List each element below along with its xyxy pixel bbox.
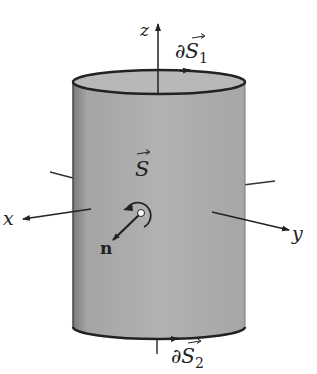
axis-stub-right: [243, 181, 275, 185]
z-axis-label: z: [139, 20, 150, 40]
y-axis-label: y: [291, 222, 303, 244]
normal-label: n: [100, 238, 112, 258]
bottom-boundary-label: ∂S2: [171, 344, 204, 371]
top-boundary-label: ∂S1: [175, 39, 208, 66]
x-axis-label: x: [3, 207, 14, 229]
surface-label: S: [135, 157, 149, 181]
axis-stub-left: [50, 172, 73, 178]
normal-origin-point: [138, 210, 145, 217]
cylinder-surface: [73, 82, 245, 339]
top-boundary-curve: [73, 70, 245, 94]
cylinder-diagram: z ∂S1 S x y n ∂S2: [0, 0, 317, 374]
